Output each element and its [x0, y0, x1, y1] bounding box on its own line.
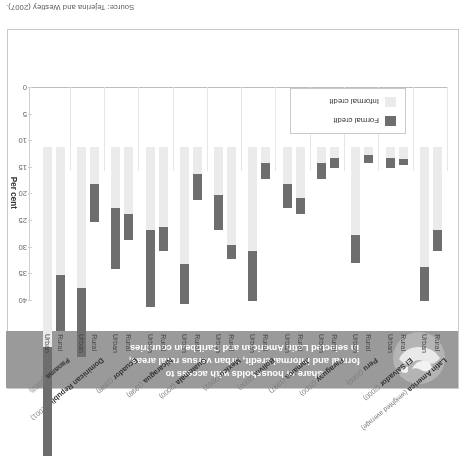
stacked-bar[interactable] [351, 147, 360, 263]
stacked-bar[interactable] [193, 147, 202, 200]
stacked-bar[interactable] [146, 147, 155, 307]
bar-segment-informal-credit[interactable] [386, 147, 395, 158]
group-separator [70, 87, 71, 171]
stacked-bar[interactable] [90, 147, 99, 222]
stacked-bar[interactable] [111, 147, 120, 269]
bar-segment-informal-credit[interactable] [180, 147, 189, 264]
bar-segment-informal-credit[interactable] [330, 147, 339, 158]
bar-segment-formal-credit[interactable] [317, 163, 326, 179]
stacked-bar[interactable] [77, 147, 86, 357]
stacked-bar[interactable] [386, 147, 395, 168]
bar-segment-formal-credit[interactable] [249, 251, 258, 302]
y-axis-tick-label: 35 [19, 270, 27, 279]
bar-segment-formal-credit[interactable] [56, 275, 65, 331]
bar-segment-formal-credit[interactable] [146, 230, 155, 307]
bar-area-label: Urban [44, 334, 51, 353]
bar-segment-informal-credit[interactable] [420, 147, 429, 267]
bar-group: RuralUrbanNicaragua (1998) [135, 88, 169, 331]
bar-segment-formal-credit[interactable] [227, 246, 236, 259]
bar-segment-informal-credit[interactable] [43, 147, 52, 347]
bar-group: RuralUrbanEcuador (1998) [101, 88, 135, 331]
stacked-bar[interactable] [227, 147, 236, 259]
bar-segment-formal-credit[interactable] [364, 155, 373, 163]
bar-segment-informal-credit[interactable] [364, 147, 373, 155]
bar-segment-formal-credit[interactable] [330, 158, 339, 169]
bar-segment-formal-credit[interactable] [111, 208, 120, 269]
stacked-bar[interactable] [159, 147, 168, 251]
bar-segment-informal-credit[interactable] [56, 147, 65, 275]
stacked-bar[interactable] [214, 147, 223, 230]
bar-segment-informal-credit[interactable] [193, 147, 202, 174]
bar-segment-formal-credit[interactable] [90, 184, 99, 221]
stacked-bar[interactable] [420, 147, 429, 301]
y-axis-tick-mark [28, 87, 32, 88]
bar-segment-formal-credit[interactable] [214, 195, 223, 230]
y-axis-tick-mark [28, 220, 32, 221]
y-axis-tick-label: 5 [23, 110, 27, 119]
legend: Formal credit Informal credit [290, 88, 406, 134]
stacked-bar[interactable] [262, 147, 271, 179]
y-axis-tick-label: 20 [19, 190, 27, 199]
bar-segment-informal-credit[interactable] [90, 147, 99, 184]
y-axis-tick-label: 0 [23, 84, 27, 93]
stacked-bar[interactable] [364, 147, 373, 163]
bar-area-label: Urban [250, 334, 257, 353]
bar-segment-informal-credit[interactable] [351, 147, 360, 235]
bar-segment-informal-credit[interactable] [433, 147, 442, 230]
stacked-bar[interactable] [124, 147, 133, 240]
bar-group: RuralUrbanDominican Republic (2001) [67, 88, 101, 331]
y-axis-tick-label: 10 [19, 137, 27, 146]
y-axis-tick-mark [28, 247, 32, 248]
stacked-bar[interactable] [56, 147, 65, 331]
bar-segment-formal-credit[interactable] [193, 174, 202, 201]
legend-item-formal: Formal credit [334, 116, 397, 126]
bar-segment-formal-credit[interactable] [351, 235, 360, 263]
bar-segment-formal-credit[interactable] [386, 158, 395, 169]
bar-segment-formal-credit[interactable] [433, 230, 442, 251]
legend-item-informal: Informal credit [330, 97, 396, 107]
bar-segment-informal-credit[interactable] [159, 147, 168, 227]
bar-area-label: Rural [194, 334, 201, 351]
bar-segment-informal-credit[interactable] [111, 147, 120, 208]
stacked-bar[interactable] [249, 147, 258, 301]
bar-segment-informal-credit[interactable] [249, 147, 258, 251]
bar-segment-informal-credit[interactable] [146, 147, 155, 230]
bar-segment-formal-credit[interactable] [296, 198, 305, 214]
bar-group: RuralUrbanPanama (2003) [32, 88, 66, 331]
bar-area-label: Urban [318, 334, 325, 353]
bar-segment-informal-credit[interactable] [124, 147, 133, 214]
bar-segment-informal-credit[interactable] [77, 147, 86, 288]
bar-segment-formal-credit[interactable] [43, 347, 52, 456]
bar-segment-formal-credit[interactable] [262, 163, 271, 179]
stacked-bar[interactable] [283, 147, 292, 208]
bar-segment-informal-credit[interactable] [399, 147, 408, 159]
bar-segment-formal-credit[interactable] [180, 264, 189, 304]
bar-segment-formal-credit[interactable] [420, 267, 429, 302]
stacked-bar[interactable] [399, 147, 408, 165]
stacked-bar[interactable] [296, 147, 305, 214]
bar-area-label: Rural [125, 334, 132, 351]
group-separator [447, 87, 448, 171]
stacked-bar[interactable] [330, 147, 339, 168]
bar-segment-formal-credit[interactable] [283, 184, 292, 208]
bar-segment-formal-credit[interactable] [124, 214, 133, 241]
bar-segment-informal-credit[interactable] [317, 147, 326, 163]
bar-area-label: Rural [160, 334, 167, 351]
stacked-bar[interactable] [180, 147, 189, 304]
bar-segment-informal-credit[interactable] [227, 147, 236, 246]
bar-area-label: Urban [284, 334, 291, 353]
plot-area: Per cent 0510152025303540 RuralUrbanLati… [6, 29, 458, 331]
bar-segment-informal-credit[interactable] [262, 147, 271, 163]
bar-segment-informal-credit[interactable] [283, 147, 292, 184]
stacked-bar[interactable] [43, 147, 52, 456]
stacked-bar[interactable] [433, 147, 442, 251]
bar-segment-formal-credit[interactable] [159, 227, 168, 251]
bar-segment-informal-credit[interactable] [214, 147, 223, 195]
bar-group: RuralUrbanGuatemala (2000) [170, 88, 204, 331]
stacked-bar[interactable] [317, 147, 326, 179]
bar-area-label: Urban [387, 334, 394, 353]
y-axis-tick-mark [28, 194, 32, 195]
bar-segment-informal-credit[interactable] [296, 147, 305, 198]
bar-segment-formal-credit[interactable] [399, 159, 408, 165]
y-axis-tick-mark [28, 140, 32, 141]
